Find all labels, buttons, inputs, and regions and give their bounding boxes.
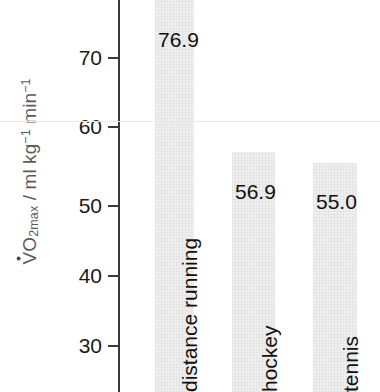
y-tick-30 — [108, 345, 119, 347]
bar-category-label-hockey: hockey — [258, 325, 282, 392]
bar-category-label-distance-running: distance running — [178, 238, 202, 392]
y-tick-label-60: 60 — [56, 115, 102, 139]
y-tick-70 — [108, 57, 119, 59]
y-axis-units-1: / ml kg — [19, 144, 40, 206]
bar-value-distance-running: 76.9 — [158, 28, 199, 52]
exponent-minus-one-b: −1 — [19, 78, 33, 93]
bar-value-tennis: 55.0 — [316, 190, 357, 214]
y-tick-60 — [108, 126, 119, 128]
y-tick-label-40: 40 — [56, 264, 102, 288]
bar-category-label-tennis: tennis — [339, 336, 363, 392]
y-tick-label-30: 30 — [56, 334, 102, 358]
exponent-minus-one-a: −1 — [19, 129, 33, 144]
o-symbol: O — [19, 237, 40, 252]
y-tick-50 — [108, 205, 119, 207]
v-dot-symbol: V — [19, 252, 41, 265]
y-axis-units-2: min — [19, 93, 40, 129]
o2max-subscript: 2max — [27, 206, 41, 237]
bar-value-hockey: 56.9 — [235, 180, 276, 204]
y-tick-label-50: 50 — [56, 194, 102, 218]
bar-chart: VO2max / ml kg−1 min−1 70 60 50 40 30 76… — [0, 0, 380, 392]
y-tick-40 — [108, 275, 119, 277]
y-axis-title: VO2max / ml kg−1 min−1 — [19, 0, 42, 351]
y-tick-label-70: 70 — [56, 46, 102, 70]
